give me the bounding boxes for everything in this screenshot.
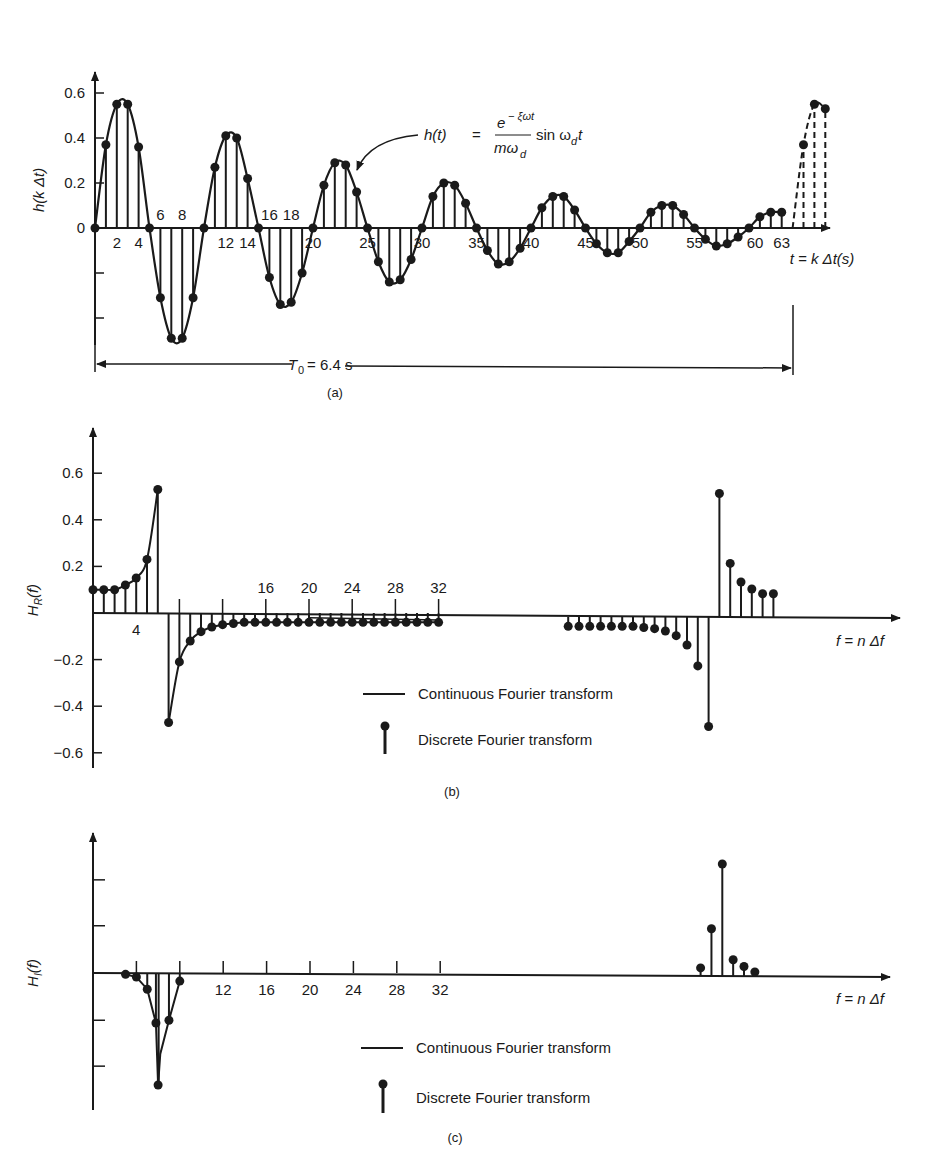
svg-text:0: 0 — [77, 219, 85, 236]
continuous-curve — [126, 974, 180, 1085]
legend-continuous: Continuous Fourier transform — [416, 1039, 611, 1056]
svg-text:4: 4 — [134, 234, 142, 251]
svg-text:20: 20 — [305, 234, 322, 251]
svg-text:28: 28 — [388, 981, 405, 998]
svg-text:2: 2 — [113, 234, 121, 251]
pointer-arrow — [357, 135, 418, 170]
svg-text:25: 25 — [359, 234, 376, 251]
periodic-extension — [793, 100, 830, 228]
legend-discrete: Discrete Fourier transform — [416, 1089, 590, 1106]
svg-text:6: 6 — [156, 206, 164, 223]
svg-text:sin ω: sin ω — [536, 126, 571, 143]
svg-text:=: = — [472, 126, 481, 143]
svg-text:50: 50 — [632, 234, 649, 251]
svg-text:0.2: 0.2 — [64, 174, 85, 191]
legend-discrete: Discrete Fourier transform — [418, 731, 592, 748]
svg-text:0.6: 0.6 — [62, 464, 83, 481]
continuous-curve-positive — [93, 490, 158, 591]
svg-text:20: 20 — [302, 981, 319, 998]
svg-text:d: d — [571, 135, 578, 147]
x-axis-label: f = n Δf — [836, 632, 886, 649]
svg-text:63: 63 — [773, 234, 790, 251]
svg-text:12: 12 — [215, 981, 232, 998]
svg-text:− ξωt: − ξωt — [508, 110, 535, 123]
svg-text:e: e — [497, 114, 505, 131]
svg-text:0.6: 0.6 — [64, 84, 85, 101]
svg-text:32: 32 — [432, 981, 449, 998]
svg-text:16: 16 — [261, 206, 278, 223]
y-axis-label: HI(f) — [24, 959, 44, 987]
svg-text:mω: mω — [494, 139, 518, 156]
panel-c-imaginary-part: 121620242832 HI(f) f = n Δf Continuous F… — [24, 833, 890, 1145]
legend: Continuous Fourier transform Discrete Fo… — [361, 1039, 611, 1113]
svg-text:30: 30 — [414, 234, 431, 251]
svg-text:h(t): h(t) — [424, 126, 447, 143]
panel-b-real-part: 0.60.40.2−0.2−0.4−0.6 41620242832 HR(f) … — [24, 428, 900, 799]
y-axis-label: h(k Δt) — [30, 168, 47, 212]
svg-text:40: 40 — [523, 234, 540, 251]
svg-text:0.2: 0.2 — [62, 557, 83, 574]
svg-text:−0.6: −0.6 — [53, 744, 83, 761]
y-axis-label: HR(f) — [24, 584, 44, 616]
svg-text:0.4: 0.4 — [62, 511, 83, 528]
continuous-curve-negative — [169, 622, 439, 722]
svg-text:0: 0 — [298, 364, 304, 376]
svg-text:16: 16 — [258, 981, 275, 998]
figure-canvas: 0.60.40.20 68161824121420253035404550556… — [0, 0, 929, 1169]
x-axis-label: f = n Δf — [836, 990, 886, 1007]
svg-text:24: 24 — [344, 579, 361, 596]
panel-a-time-signal: 0.60.40.20 68161824121420253035404550556… — [30, 72, 854, 400]
legend: Continuous Fourier transform Discrete Fo… — [363, 685, 613, 754]
panel-caption: (c) — [447, 1130, 462, 1145]
panel-caption: (b) — [444, 784, 460, 799]
svg-text:4: 4 — [132, 621, 140, 638]
svg-text:8: 8 — [178, 206, 186, 223]
svg-text:12: 12 — [217, 234, 234, 251]
svg-text:0.4: 0.4 — [64, 129, 85, 146]
svg-text:55: 55 — [686, 234, 703, 251]
svg-text:60: 60 — [747, 234, 764, 251]
svg-text:t: t — [578, 126, 583, 143]
equation-annotation: h(t) = e − ξωt mω d sin ω d t — [357, 110, 583, 170]
legend-continuous: Continuous Fourier transform — [418, 685, 613, 702]
svg-text:−0.4: −0.4 — [53, 697, 83, 714]
svg-text:d: d — [520, 148, 527, 160]
svg-text:28: 28 — [387, 579, 404, 596]
svg-text:14: 14 — [239, 234, 256, 251]
svg-text:24: 24 — [345, 981, 362, 998]
svg-text:20: 20 — [301, 579, 318, 596]
svg-text:= 6.4 s: = 6.4 s — [307, 356, 352, 373]
period-annotation: T 0 = 6.4 s — [95, 305, 793, 376]
x-axis-label: t = k Δt(s) — [790, 250, 855, 267]
svg-text:35: 35 — [468, 234, 485, 251]
x-axis — [93, 613, 900, 618]
panel-caption: (a) — [327, 385, 343, 400]
svg-text:32: 32 — [430, 579, 447, 596]
x-axis — [93, 973, 890, 977]
svg-text:−0.2: −0.2 — [53, 651, 83, 668]
svg-text:16: 16 — [257, 579, 274, 596]
svg-text:18: 18 — [283, 206, 300, 223]
svg-text:45: 45 — [577, 234, 594, 251]
